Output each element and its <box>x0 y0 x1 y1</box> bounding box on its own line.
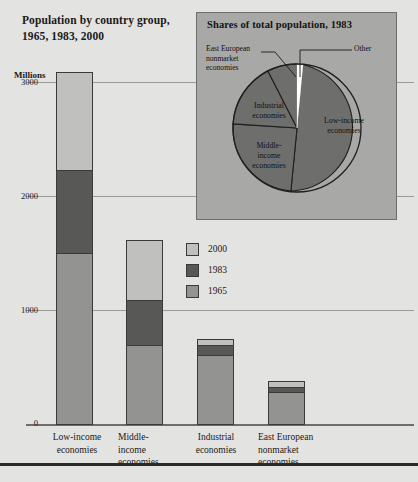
bar-industrial-1965 <box>197 355 234 425</box>
chart-title: Population by country group, 1965, 1983,… <box>22 12 212 44</box>
pie-label-low-income-line-1: Low-income <box>313 116 375 126</box>
pie-label-industrial-line-1: Industrial <box>241 101 297 111</box>
pie-label-middle-income-line-3: economies <box>241 161 297 171</box>
pie-inset-panel: Shares of total population, 1983 <box>196 12 397 220</box>
y-tick-label-0: 0 <box>0 418 38 428</box>
x-category-label-east-european-line-2: nonmarket <box>258 444 338 457</box>
x-category-label-east-european-line-1: East European <box>258 431 338 444</box>
x-category-label-low-income-line-2: economies <box>46 444 108 457</box>
legend-swatch-1965-icon <box>186 285 199 298</box>
pie-label-industrial-line-2: economies <box>241 111 297 121</box>
x-category-label-low-income: Low-income economies <box>46 431 108 456</box>
pie-label-low-income-line-2: economies <box>313 126 375 136</box>
bar-middle-income-1965 <box>126 345 163 425</box>
chart-title-line-1: Population by country group, <box>22 12 212 28</box>
x-category-label-industrial: Industrial economies <box>185 431 247 456</box>
figure-bottom-rule <box>0 463 418 466</box>
pie-label-middle-income: Middle- income economies <box>241 141 297 170</box>
chart-plot-surface: Population by country group, 1965, 1983,… <box>0 0 418 466</box>
bar-low-income-1983 <box>56 170 93 254</box>
legend-label-2000: 2000 <box>208 243 227 256</box>
x-category-label-industrial-line-1: Industrial <box>185 431 247 444</box>
bar-low-income-1965 <box>56 253 93 425</box>
x-category-label-middle-income-line-2: income <box>118 444 180 457</box>
legend-label-1983: 1983 <box>208 264 227 277</box>
bar-middle-income-2000 <box>126 240 163 301</box>
bar-low-income-2000 <box>56 72 93 171</box>
pie-label-middle-income-line-2: income <box>241 151 297 161</box>
chart-title-line-2: 1965, 1983, 2000 <box>22 28 212 44</box>
pie-label-east-european-line-2: nonmarket <box>206 54 280 64</box>
pie-label-other-line-1: Other <box>354 44 398 54</box>
legend-label-1965: 1965 <box>208 285 227 298</box>
pie-label-other: Other <box>354 44 398 54</box>
bar-middle-income-1983 <box>126 300 163 346</box>
y-tick-label-3000: 3000 <box>0 77 38 87</box>
pie-label-east-european-line-1: East European <box>206 44 280 54</box>
x-category-label-middle-income-line-1: Middle- <box>118 431 180 444</box>
legend-swatch-1983-icon <box>186 264 199 277</box>
y-tick-label-2000: 2000 <box>0 191 38 201</box>
pie-label-middle-income-line-1: Middle- <box>241 141 297 151</box>
pie-label-east-european-line-3: economies <box>206 63 280 73</box>
pie-label-industrial: Industrial economies <box>241 101 297 121</box>
legend-swatch-2000-icon <box>186 243 199 256</box>
x-category-label-industrial-line-2: economies <box>185 444 247 457</box>
x-category-label-low-income-line-1: Low-income <box>46 431 108 444</box>
y-tick-label-1000: 1000 <box>0 305 38 315</box>
chart-figure: Population by country group, 1965, 1983,… <box>0 0 418 482</box>
pie-label-low-income: Low-income economies <box>313 116 375 136</box>
pie-label-east-european: East European nonmarket economies <box>206 44 280 73</box>
bar-east-european-1965 <box>268 392 305 425</box>
